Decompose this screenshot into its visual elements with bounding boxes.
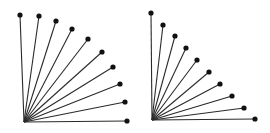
- ray-line: [152, 72, 209, 120]
- ray-line: [152, 25, 163, 120]
- ray-endpoint-dot: [172, 33, 177, 38]
- ray-endpoint-dot: [36, 13, 41, 18]
- fan-diagram: [0, 0, 270, 133]
- ray-endpoint-dot: [17, 12, 22, 17]
- ray-line: [152, 108, 244, 120]
- ray-endpoint-dot: [194, 57, 199, 62]
- ray-line: [24, 121, 127, 122]
- right-fan-diagonal: [148, 10, 257, 121]
- ray-endpoint-dot: [183, 45, 188, 50]
- ray-line: [151, 13, 152, 120]
- ray-line: [20, 15, 24, 122]
- ray-endpoint-dot: [217, 81, 222, 86]
- left-fan-arc: [17, 12, 129, 123]
- ray-endpoint-dot: [252, 116, 257, 121]
- ray-endpoint-dot: [241, 105, 246, 110]
- ray-endpoint-dot: [122, 99, 127, 104]
- ray-line: [24, 21, 56, 122]
- ray-endpoint-dot: [229, 93, 234, 98]
- ray-endpoint-dot: [124, 118, 129, 123]
- ray-endpoint-dot: [206, 69, 211, 74]
- ray-endpoint-dot: [117, 81, 122, 86]
- ray-endpoint-dot: [69, 26, 74, 31]
- diagram-canvas: [0, 0, 270, 133]
- ray-endpoint-dot: [110, 64, 115, 69]
- ray-endpoint-dot: [160, 22, 165, 27]
- ray-line: [152, 119, 255, 120]
- ray-line: [24, 67, 113, 122]
- ray-line: [152, 60, 197, 120]
- ray-endpoint-dot: [148, 10, 153, 15]
- ray-line: [24, 29, 72, 122]
- ray-endpoint-dot: [85, 36, 90, 41]
- ray-line: [152, 96, 232, 120]
- ray-endpoint-dot: [99, 49, 104, 54]
- ray-line: [152, 84, 220, 120]
- ray-line: [24, 52, 102, 122]
- ray-endpoint-dot: [53, 18, 58, 23]
